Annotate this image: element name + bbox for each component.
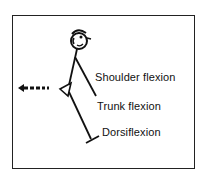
head-icon (71, 30, 91, 49)
trunk-line (69, 49, 77, 85)
trunk-flexion-label: Trunk flexion (97, 100, 161, 112)
stick-figure-icon (0, 0, 209, 178)
dashed-arrow-left-icon (18, 84, 49, 92)
shoulder-flexion-label: Shoulder flexion (95, 71, 176, 83)
arm-line (75, 57, 96, 96)
dorsiflexion-label: Dorsiflexion (102, 126, 161, 138)
foot-line (86, 136, 99, 143)
leg-line (69, 92, 91, 139)
